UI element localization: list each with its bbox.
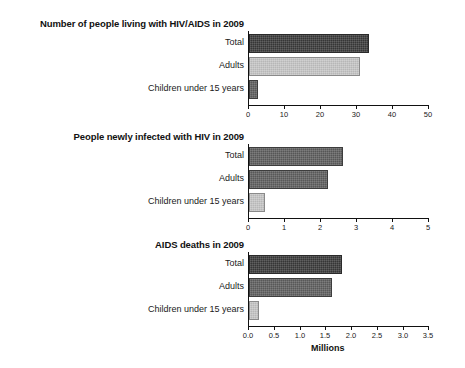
x-tick xyxy=(356,106,357,109)
x-tick xyxy=(274,327,275,330)
x-tick-label: 0 xyxy=(246,110,250,119)
x-tick-label: 3 xyxy=(354,223,358,232)
x-tick-label: 1.0 xyxy=(295,331,305,340)
x-tick xyxy=(300,327,301,330)
bar-children xyxy=(249,80,258,99)
x-axis-2 xyxy=(248,218,429,219)
x-tick xyxy=(248,219,249,222)
category-label-children: Children under 15 years xyxy=(148,305,244,314)
x-axis-caption: Millions xyxy=(311,343,345,353)
bar-children xyxy=(249,301,259,320)
x-tick xyxy=(392,219,393,222)
x-tick-label: 0.0 xyxy=(243,331,253,340)
x-tick xyxy=(351,327,352,330)
category-label-adults: Adults xyxy=(219,61,244,70)
x-tick xyxy=(377,327,378,330)
bar-total xyxy=(249,34,369,53)
x-tick xyxy=(320,219,321,222)
bar-adults xyxy=(249,278,332,297)
category-label-children: Children under 15 years xyxy=(148,197,244,206)
x-tick-label: 40 xyxy=(388,110,396,119)
chart-title-2: People newly infected with HIV in 2009 xyxy=(74,131,244,142)
x-tick-label: 2.0 xyxy=(346,331,356,340)
bar-adults xyxy=(249,57,360,76)
category-label-total: Total xyxy=(225,259,244,268)
bar-total xyxy=(249,147,343,166)
x-tick-label: 30 xyxy=(352,110,360,119)
x-tick-label: 1.5 xyxy=(320,331,330,340)
bar-children xyxy=(249,193,265,212)
x-tick-label: 1 xyxy=(282,223,286,232)
category-label-children: Children under 15 years xyxy=(148,84,244,93)
x-tick xyxy=(428,219,429,222)
x-tick xyxy=(325,327,326,330)
chart-title-3: AIDS deaths in 2009 xyxy=(155,239,244,250)
chart-title-1: Number of people living with HIV/AIDS in… xyxy=(40,18,244,29)
x-axis-1 xyxy=(248,105,429,106)
x-tick xyxy=(284,219,285,222)
x-tick xyxy=(356,219,357,222)
x-tick xyxy=(428,327,429,330)
x-axis-3 xyxy=(248,326,429,327)
x-tick xyxy=(320,106,321,109)
x-tick-label: 0 xyxy=(246,223,250,232)
x-tick-label: 0.5 xyxy=(269,331,279,340)
x-tick xyxy=(428,106,429,109)
x-tick-label: 50 xyxy=(424,110,432,119)
x-tick xyxy=(248,106,249,109)
category-label-total: Total xyxy=(225,151,244,160)
x-tick-label: 2 xyxy=(318,223,322,232)
x-tick-label: 3.0 xyxy=(398,331,408,340)
x-tick-label: 3.5 xyxy=(423,331,433,340)
category-label-total: Total xyxy=(225,38,244,47)
category-label-adults: Adults xyxy=(219,174,244,183)
x-tick-label: 4 xyxy=(390,223,394,232)
category-label-adults: Adults xyxy=(219,282,244,291)
x-tick-label: 5 xyxy=(426,223,430,232)
x-tick xyxy=(284,106,285,109)
bar-adults xyxy=(249,170,328,189)
x-tick xyxy=(392,106,393,109)
x-tick-label: 10 xyxy=(280,110,288,119)
x-tick xyxy=(403,327,404,330)
x-tick-label: 2.5 xyxy=(372,331,382,340)
x-tick xyxy=(248,327,249,330)
x-tick-label: 20 xyxy=(316,110,324,119)
bar-total xyxy=(249,255,342,274)
